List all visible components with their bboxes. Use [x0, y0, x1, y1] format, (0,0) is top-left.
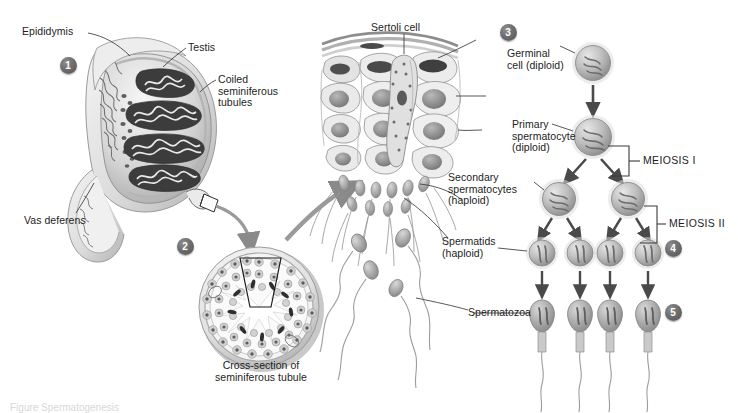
testis-illustration [68, 38, 218, 262]
label-sertoli-cell: Sertoli cell [371, 22, 420, 34]
label-testis: Testis [188, 42, 215, 54]
step-badge-4: 4 [665, 240, 682, 257]
figure-canvas: Epididymis Testis Coiled seminiferous tu… [0, 0, 738, 413]
label-germinal-cell: Germinal cell (diploid) [507, 48, 564, 71]
step-badge-2: 2 [177, 238, 194, 255]
lineage-spermatozoa [530, 300, 661, 412]
label-spermatozoa: Spermatozoa [468, 307, 531, 319]
step-badge-5: 5 [665, 304, 682, 321]
cross-section-illustration [199, 247, 324, 372]
spermatogenesis-lineage [526, 42, 666, 412]
developing-spermatozoa [310, 174, 456, 266]
label-epididymis: Epididymis [22, 26, 73, 38]
tubule-extraction-marker [186, 189, 218, 212]
label-primary-spermatocyte: Primary spermatocyte (diploid) [512, 119, 576, 154]
spermatogonia-row [323, 52, 457, 83]
label-spermatids: Spermatids (haploid) [442, 236, 496, 259]
figure-bottom-caption: Figure Spermatogenesis [10, 402, 430, 413]
lineage-primary-spermatocyte [571, 115, 615, 159]
label-secondary-spermatocytes: Secondary spermatocytes (haploid) [448, 172, 517, 207]
lineage-germinal-cell [572, 42, 614, 84]
label-coiled-seminiferous-tubules: Coiled seminiferous tubules [218, 74, 278, 109]
label-meiosis-i: MEIOSIS I [643, 155, 696, 167]
label-vas-deferens: Vas deferens [24, 215, 86, 227]
label-cross-section-caption: Cross-section of seminiferous tubule [196, 360, 326, 383]
lineage-spermatids [526, 237, 664, 269]
step-badge-1: 1 [60, 57, 77, 74]
step-badge-3: 3 [500, 24, 517, 41]
diagram-artwork [0, 0, 738, 413]
lineage-secondary-spermatocyte-left [539, 179, 579, 219]
label-meiosis-ii: MEIOSIS II [669, 218, 725, 230]
free-spermatozoa [320, 226, 430, 388]
arrow-testis-to-crosssection [216, 206, 250, 244]
sertoli-cell [387, 55, 418, 167]
tubule-wall-detail [310, 33, 461, 388]
lineage-secondary-spermatocyte-right [608, 179, 648, 219]
arrow-crosssection-to-wall [286, 188, 348, 240]
